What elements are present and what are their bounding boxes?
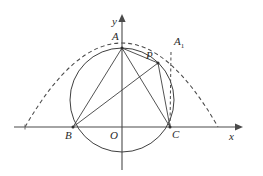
vertex-dot-p	[157, 62, 160, 65]
x-axis-label: x	[229, 131, 234, 142]
segment-ab	[73, 48, 122, 127]
point-label-a: A	[112, 31, 119, 42]
point-label-c: C	[172, 129, 179, 140]
segment-bp	[73, 63, 158, 127]
point-label-a1: A1	[174, 36, 184, 50]
vertex-dot-a	[121, 47, 124, 50]
y-axis-arrowhead	[118, 14, 125, 22]
point-label-o: O	[110, 130, 118, 141]
x-axis-arrowhead	[235, 123, 243, 130]
y-axis-label: y	[112, 16, 117, 27]
point-label-b: B	[65, 130, 72, 141]
point-label-p: P	[146, 50, 153, 61]
segment-a1-c-dashed	[170, 52, 171, 127]
geometry-figure: A B C O P A1 x y	[0, 0, 263, 176]
figure-canvas	[0, 0, 263, 176]
